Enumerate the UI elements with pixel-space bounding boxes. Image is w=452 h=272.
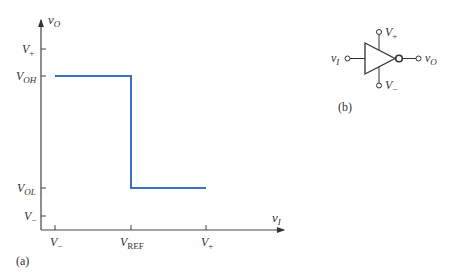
y-axis-label: vO: [48, 12, 61, 29]
caption-a: (a): [16, 254, 29, 268]
x-tick-vref: VREF: [120, 225, 144, 251]
caption-b: (b): [338, 100, 352, 114]
vminus-terminal: [377, 83, 382, 88]
input-terminal: [345, 56, 350, 61]
figure-b: vI vO V+ V− (b): [331, 25, 437, 114]
svg-text:VOL: VOL: [17, 181, 36, 197]
input-label: vI: [331, 51, 340, 67]
y-tick-vplus: V+: [22, 42, 46, 58]
vminus-label: V−: [385, 78, 397, 94]
x-tick-vminus: V−: [50, 225, 62, 251]
comparator-symbol: [345, 30, 421, 89]
output-label: vO: [425, 51, 437, 67]
svg-text:V+: V+: [201, 235, 213, 251]
y-tick-vminus: V−: [24, 209, 46, 225]
svg-text:VOH: VOH: [16, 69, 37, 85]
y-tick-vol: VOL: [17, 181, 46, 197]
svg-text:VREF: VREF: [120, 235, 144, 251]
x-tick-vplus: V+: [201, 225, 213, 251]
inversion-bubble: [396, 55, 403, 62]
x-axis-label: vI: [272, 210, 282, 227]
vplus-terminal: [377, 30, 382, 35]
figure-a: vO vI V+ VOH VOL V− V− VREF: [16, 12, 284, 268]
vplus-label: V+: [385, 25, 397, 41]
transfer-curve: [55, 76, 206, 188]
output-terminal: [416, 56, 421, 61]
diagram-canvas: vO vI V+ VOH VOL V− V− VREF: [0, 0, 452, 272]
svg-text:V−: V−: [50, 235, 62, 251]
svg-text:V−: V−: [24, 209, 36, 225]
svg-text:V+: V+: [22, 42, 34, 58]
